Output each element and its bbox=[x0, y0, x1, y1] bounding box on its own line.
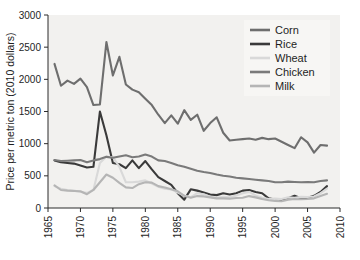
legend-label-chicken: Chicken bbox=[275, 66, 315, 78]
legend-label-corn: Corn bbox=[275, 24, 299, 36]
x-tick-label: 1975 bbox=[107, 216, 118, 239]
y-axis-ticks: 050010001500200025003000 bbox=[19, 10, 48, 214]
legend-label-wheat: Wheat bbox=[275, 52, 307, 64]
x-tick-label: 1970 bbox=[75, 216, 86, 239]
x-tick-label: 1980 bbox=[140, 216, 151, 239]
y-tick-label: 1000 bbox=[19, 138, 42, 149]
x-tick-label: 1995 bbox=[237, 216, 248, 239]
chart-legend: CornRiceWheatChickenMilk bbox=[244, 20, 330, 96]
y-tick-label: 1500 bbox=[19, 106, 42, 117]
x-tick-label: 2005 bbox=[302, 216, 313, 239]
x-axis-ticks: 1965197019751980198519901995200020052010 bbox=[43, 208, 346, 238]
y-tick-label: 2000 bbox=[19, 74, 42, 85]
y-tick-label: 0 bbox=[35, 203, 41, 214]
x-tick-label: 2000 bbox=[270, 216, 281, 239]
x-tick-label: 1990 bbox=[205, 216, 216, 239]
y-tick-label: 500 bbox=[24, 170, 41, 181]
x-tick-label: 2010 bbox=[335, 216, 346, 239]
price-line-chart: 1965197019751980198519901995200020052010… bbox=[0, 0, 360, 260]
chart-figure: 1965197019751980198519901995200020052010… bbox=[0, 0, 360, 260]
x-tick-label: 1985 bbox=[172, 216, 183, 239]
legend-label-milk: Milk bbox=[275, 80, 295, 92]
x-tick-label: 1965 bbox=[43, 216, 54, 239]
y-tick-label: 2500 bbox=[19, 42, 42, 53]
legend-label-rice: Rice bbox=[275, 38, 297, 50]
y-tick-label: 3000 bbox=[19, 10, 42, 21]
y-axis-label: Price per metric ton (2010 dollars) bbox=[4, 32, 16, 190]
